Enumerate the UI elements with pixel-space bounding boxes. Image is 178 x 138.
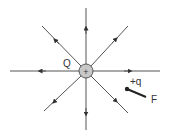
- field-line-down-right: [91, 76, 128, 113]
- field-line-up-right: [91, 26, 128, 66]
- field-line-up-left: [42, 26, 81, 66]
- source-charge: +: [79, 64, 93, 78]
- arrow-icon: [112, 97, 116, 101]
- field-line-down-left: [44, 76, 81, 111]
- test-charge-dot: [125, 87, 129, 91]
- source-charge-label: Q: [63, 58, 71, 69]
- arrow-icon: [54, 98, 58, 102]
- force-label: F: [151, 94, 157, 105]
- arrow-icon: [55, 40, 59, 44]
- arrow-icon: [112, 39, 116, 43]
- charge-sign: +: [83, 67, 88, 77]
- test-charge-label: +q: [130, 76, 141, 87]
- test-charge: [125, 87, 146, 97]
- force-vector: [127, 89, 146, 97]
- field-diagram: + Q +q F: [0, 0, 178, 138]
